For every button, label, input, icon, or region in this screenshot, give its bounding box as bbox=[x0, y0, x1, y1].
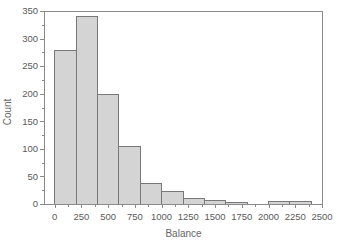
histogram-bar bbox=[119, 146, 140, 204]
x-tick-label: 2000 bbox=[258, 211, 279, 222]
histogram-bar bbox=[162, 191, 183, 204]
histogram-bar bbox=[290, 201, 311, 204]
y-tick-label: 300 bbox=[22, 33, 38, 44]
balance-histogram-chart: 0501001502002503003500250500750100012501… bbox=[0, 0, 341, 250]
histogram-bar bbox=[76, 17, 97, 204]
y-tick-label: 350 bbox=[22, 5, 38, 16]
bars-group bbox=[55, 17, 312, 204]
y-tick-label: 50 bbox=[27, 171, 38, 182]
y-tick-label: 150 bbox=[22, 116, 38, 127]
y-tick-label: 0 bbox=[33, 198, 38, 209]
x-tick-label: 1750 bbox=[231, 211, 252, 222]
histogram-bar bbox=[55, 51, 76, 204]
x-tick-label: 2500 bbox=[311, 211, 332, 222]
histogram-bar bbox=[204, 200, 225, 204]
x-axis-title: Balance bbox=[165, 228, 202, 239]
x-tick-label: 0 bbox=[52, 211, 57, 222]
histogram-bar bbox=[183, 198, 204, 204]
histogram-bar bbox=[226, 202, 247, 204]
x-tick-label: 1000 bbox=[151, 211, 172, 222]
y-tick-label: 250 bbox=[22, 60, 38, 71]
histogram-bar bbox=[269, 201, 290, 204]
x-tick-label: 2250 bbox=[285, 211, 306, 222]
histogram-bar bbox=[140, 183, 161, 204]
x-tick-label: 500 bbox=[100, 211, 116, 222]
x-tick-label: 750 bbox=[127, 211, 143, 222]
y-tick-label: 100 bbox=[22, 143, 38, 154]
y-tick-label: 200 bbox=[22, 88, 38, 99]
y-axis-title: Count bbox=[2, 98, 13, 125]
x-tick-label: 250 bbox=[73, 211, 89, 222]
histogram-figure: 0501001502002503003500250500750100012501… bbox=[0, 0, 341, 250]
histogram-bar bbox=[97, 95, 118, 204]
x-tick-label: 1500 bbox=[205, 211, 226, 222]
x-tick-label: 1250 bbox=[178, 211, 199, 222]
